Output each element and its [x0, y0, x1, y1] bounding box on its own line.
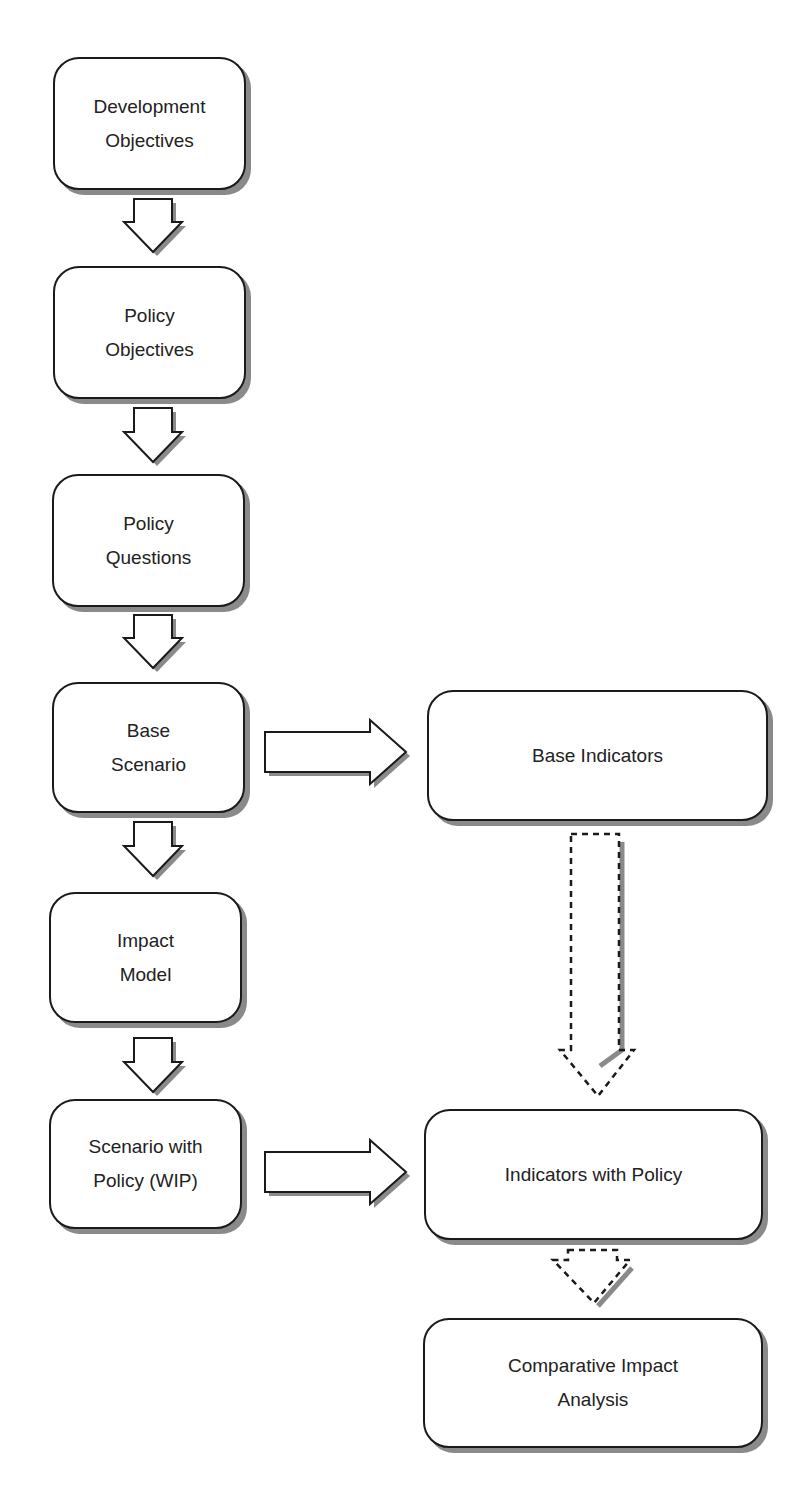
- node-label: Base Scenario: [111, 714, 186, 782]
- node-label: Base Indicators: [532, 739, 663, 773]
- node-impact-model: Impact Model: [49, 892, 242, 1023]
- node-policy-objectives: Policy Objectives: [53, 266, 246, 399]
- node-label: Policy Questions: [106, 507, 192, 575]
- node-development-objectives: Development Objectives: [53, 57, 246, 190]
- node-label: Impact Model: [117, 924, 174, 992]
- node-indicators-with-policy: Indicators with Policy: [424, 1109, 763, 1240]
- node-base-scenario: Base Scenario: [52, 682, 245, 813]
- node-label: Policy Objectives: [105, 299, 194, 367]
- node-label: Development Objectives: [94, 90, 206, 158]
- dashed-down-arrow-icon-1: [560, 834, 634, 1096]
- dashed-down-arrow-icon-2: [553, 1250, 632, 1306]
- down-arrow-icon-1: [124, 199, 186, 256]
- right-arrow-icon-1: [265, 720, 410, 788]
- node-label: Comparative Impact Analysis: [508, 1349, 678, 1417]
- node-label: Indicators with Policy: [505, 1158, 682, 1192]
- node-comparative-impact-analysis: Comparative Impact Analysis: [423, 1318, 763, 1448]
- right-arrow-icon-2: [265, 1140, 410, 1208]
- down-arrow-icon-4: [124, 822, 186, 880]
- node-scenario-with-policy: Scenario with Policy (WIP): [49, 1099, 242, 1229]
- node-base-indicators: Base Indicators: [427, 690, 768, 821]
- node-label: Scenario with Policy (WIP): [88, 1130, 202, 1198]
- down-arrow-icon-2: [124, 408, 186, 466]
- down-arrow-icon-5: [124, 1038, 186, 1096]
- node-policy-questions: Policy Questions: [52, 474, 245, 607]
- down-arrow-icon-3: [124, 615, 186, 672]
